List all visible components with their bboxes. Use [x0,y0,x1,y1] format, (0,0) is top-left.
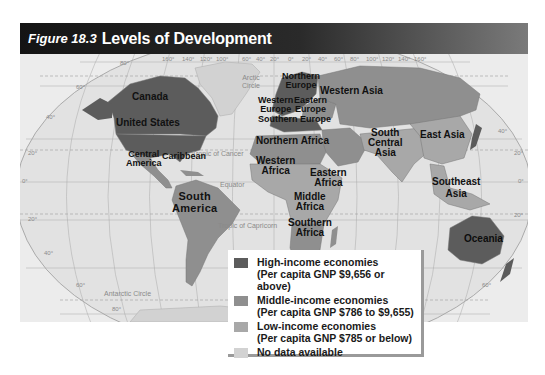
label-line: Africa [296,227,324,238]
arctic-circle-line2: Circle [242,82,260,89]
latitude-tick: 0° [518,178,524,184]
region-label-south-america: South America [172,190,218,214]
label-line: Africa [314,177,342,188]
longitude-tick: 60° [334,56,343,62]
legend-swatch-low-income [234,322,248,332]
legend-swatch-no-data [234,348,248,358]
region-label-western-asia: Western Asia [320,86,383,96]
legend-label: Middle-income economies [257,294,414,306]
latitude-tick: 20° [28,216,37,222]
region-label-central-america: Central America [126,150,162,168]
region-label-south-central-asia: South Central Asia [368,128,402,158]
label-line: Southeast [432,176,480,187]
region-label-northern-africa: Northern Africa [256,136,329,146]
legend-text: High-income economies (Per capita GNP $9… [257,256,417,292]
latitude-tick: 40° [46,114,55,120]
map-legend: High-income economies (Per capita GNP $9… [228,250,424,357]
latitude-tick: 60° [76,84,85,90]
longitude-tick: 80° [350,56,359,62]
longitude-tick: 20° [302,56,311,62]
longitude-tick: 140° [398,56,410,62]
legend-swatch-middle-income [234,296,248,306]
figure-title: Levels of Development [102,30,272,48]
label-line: Europe [295,104,326,114]
label-line: Africa [296,201,324,212]
legend-sublabel: (Per capita GNP $9,656 or above) [257,268,417,292]
latitude-tick: 60° [76,282,85,288]
region-label-northern-europe: Northern Europe [282,72,320,90]
region-label-united-states: United States [116,118,180,128]
latitude-tick: 40° [498,128,507,134]
longitude-tick: 160° [162,56,174,62]
legend-sublabel: (Per capita GNP $786 to $9,655) [257,306,414,318]
label-line: South [178,190,211,202]
legend-swatch-high-income [234,258,248,268]
arctic-circle-line1: Arctic [242,74,260,81]
figure-number: Figure 18.3 [28,31,97,46]
region-label-middle-africa: Middle Africa [294,192,326,212]
label-line: Africa [261,165,289,176]
region-label-canada: Canada [132,92,168,102]
latitude-tick: 0° [22,178,28,184]
region-label-east-asia: East Asia [420,130,465,140]
longitude-tick: 160° [414,56,426,62]
longitude-tick: 0° [288,56,294,62]
legend-text: Low-income economies (Per capita GNP $78… [257,320,412,344]
region-label-western-europe: Western Europe [258,96,293,114]
region-label-caribbean: Caribbean [162,152,206,161]
antarctic-circle-label: Antarctic Circle [104,290,151,297]
figure-header: Figure 18.3 Levels of Development [20,23,528,54]
longitude-tick: 40° [256,56,265,62]
latitude-tick: 20° [28,150,37,156]
legend-item-middle-income: Middle-income economies (Per capita GNP … [234,294,417,318]
longitude-tick: 100° [216,56,228,62]
longitude-tick: 120° [382,56,394,62]
label-line: Asia [375,147,396,158]
legend-item-no-data: No data available [234,346,417,358]
longitude-tick: 120° [200,56,212,62]
latitude-tick: 40° [44,250,53,256]
label-line: Asia [446,188,467,199]
label-line: America [172,202,218,214]
latitude-tick: 80° [112,306,121,312]
label-line: Europe [260,104,291,114]
longitude-tick: 140° [182,56,194,62]
legend-label: Low-income economies [257,320,412,332]
legend-item-high-income: High-income economies (Per capita GNP $9… [234,256,417,292]
label-line: America [126,158,162,168]
region-label-eastern-africa: Eastern Africa [310,168,347,188]
legend-label: No data available [257,346,343,358]
latitude-tick: 20° [514,150,523,156]
latitude-tick: 80° [120,60,129,66]
legend-sublabel: (Per capita GNP $785 or below) [257,332,412,344]
legend-label: High-income economies [257,256,417,268]
arctic-circle-label: Arctic Circle [242,74,260,90]
latitude-tick: 20° [514,212,523,218]
region-label-southern-africa: Southern Africa [288,218,332,238]
region-label-southeast-asia: Southeast Asia [432,176,480,200]
label-line: Europe [285,80,316,90]
latitude-tick: 60° [482,282,491,288]
longitude-tick: 100° [366,56,378,62]
longitude-tick: 20° [270,56,279,62]
region-label-oceania: Oceania [464,234,503,244]
region-label-eastern-europe: Eastern Europe [294,96,327,114]
equator-label: Equator [220,181,245,188]
tropic-of-capricorn-label: Tropic of Capricorn [218,222,277,229]
region-label-southern-europe: Southern Europe [258,115,331,124]
legend-text: Middle-income economies (Per capita GNP … [257,294,414,318]
legend-text: No data available [257,346,343,358]
longitude-tick: 60° [242,56,251,62]
region-label-western-africa: Western Africa [256,156,295,176]
longitude-tick: 40° [318,56,327,62]
legend-item-low-income: Low-income economies (Per capita GNP $78… [234,320,417,344]
